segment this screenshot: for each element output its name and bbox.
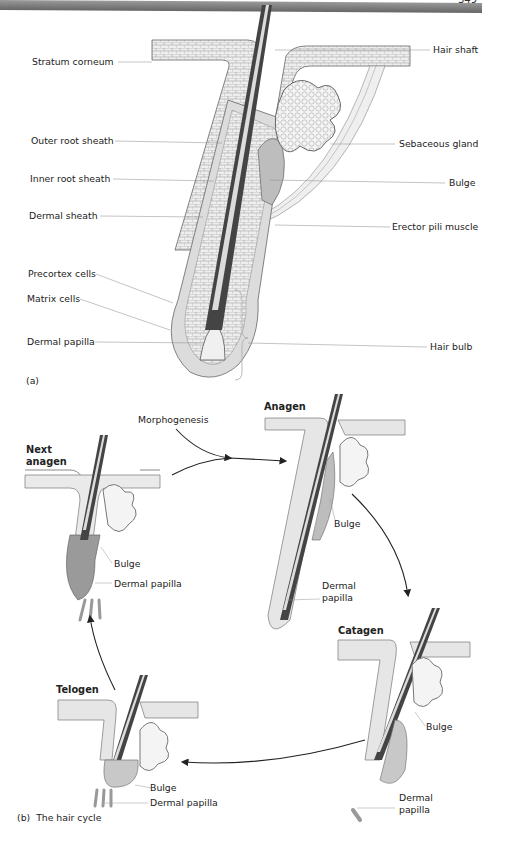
label-dermal-papilla-a: Dermal papilla — [27, 336, 95, 347]
stage-catagen-diagram — [338, 608, 470, 820]
stage-title-next-anagen-2: anagen — [26, 456, 67, 467]
stage-title-anagen: Anagen — [264, 401, 306, 412]
label-dermal-papilla-catagen-1: Dermal — [399, 792, 433, 803]
stage-title-telogen: Telogen — [56, 684, 99, 695]
label-bulge-anagen: Bulge — [334, 518, 360, 529]
label-bulge-a: Bulge — [449, 177, 475, 188]
label-precortex-cells: Precortex cells — [28, 268, 96, 279]
label-dermal-papilla-anagen-1: Dermal — [322, 580, 356, 591]
label-dermal-papilla-anagen-2: papilla — [322, 592, 353, 603]
stage-title-next-anagen-1: Next — [26, 444, 52, 455]
label-sebaceous-gland: Sebaceous gland — [399, 138, 478, 149]
label-stratum-corneum: Stratum corneum — [32, 56, 114, 67]
label-morphogenesis: Morphogenesis — [138, 414, 209, 425]
label-erector-pili-muscle: Erector pili muscle — [392, 221, 478, 232]
label-hair-shaft: Hair shaft — [433, 44, 478, 55]
label-bulge-catagen: Bulge — [426, 721, 452, 732]
figure-a-follicle — [152, 5, 410, 380]
label-outer-root-sheath: Outer root sheath — [31, 135, 114, 146]
label-hair-bulb: Hair bulb — [430, 341, 472, 352]
panel-label-b: (b) The hair cycle — [17, 812, 101, 823]
label-inner-root-sheath: Inner root sheath — [30, 173, 110, 184]
panel-label-b-letter: (b) — [17, 812, 30, 823]
label-dermal-sheath: Dermal sheath — [29, 210, 98, 221]
label-dermal-papilla-telogen: Dermal papilla — [150, 797, 218, 808]
label-matrix-cells: Matrix cells — [27, 293, 80, 304]
label-bulge-telogen: Bulge — [150, 782, 176, 793]
panel-label-a: (a) — [26, 375, 39, 386]
label-dermal-papilla-catagen-2: papilla — [399, 804, 430, 815]
label-bulge-next-anagen: Bulge — [114, 558, 140, 569]
label-dermal-papilla-next-anagen: Dermal papilla — [114, 578, 182, 589]
stage-title-catagen: Catagen — [338, 625, 384, 636]
figure-caption: The hair cycle — [36, 812, 101, 823]
